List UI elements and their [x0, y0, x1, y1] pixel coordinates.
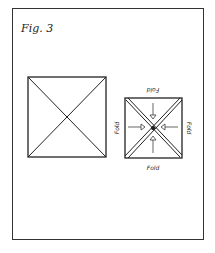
arrow-right-icon — [128, 124, 145, 130]
arrow-up-icon — [150, 136, 156, 153]
left-square — [28, 77, 106, 157]
fold-label-right: Fold — [186, 122, 193, 135]
arrow-left-icon — [161, 124, 178, 130]
fold-label-left: Fold — [113, 122, 120, 135]
arrow-down-icon — [150, 103, 156, 119]
fold-label-top: Fold — [147, 87, 160, 94]
right-square — [125, 98, 182, 158]
fold-label-bottom: Fold — [147, 164, 160, 171]
fold-diagram: Fold Fold Fold Fold — [0, 0, 215, 253]
